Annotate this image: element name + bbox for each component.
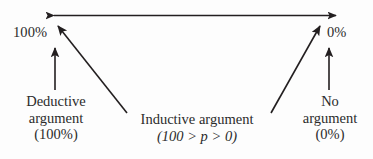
inductive-probability-formula: (100 > p > 0) [122,128,272,145]
inductive-argument-label: Inductive argument (100 > p > 0) [122,111,272,144]
no-argument-label-line1: No [292,93,368,110]
endpoint-label-right: 0% [327,24,347,40]
no-argument-label-line2: argument [292,110,368,127]
deductive-label-line1: Deductive [0,93,112,110]
deductive-label-line2: argument [0,110,112,127]
inductive-label-line1: Inductive argument [122,111,272,128]
no-argument-label: No argument (0%) [292,93,368,143]
deductive-argument-label: Deductive argument (100%) [0,93,112,143]
deductive-label-line3: (100%) [0,126,112,143]
no-argument-label-line3: (0%) [292,126,368,143]
endpoint-label-left: 100% [13,24,47,40]
argument-continuum-diagram: 100% 0% Deductive argument (100%) No arg… [0,0,373,159]
